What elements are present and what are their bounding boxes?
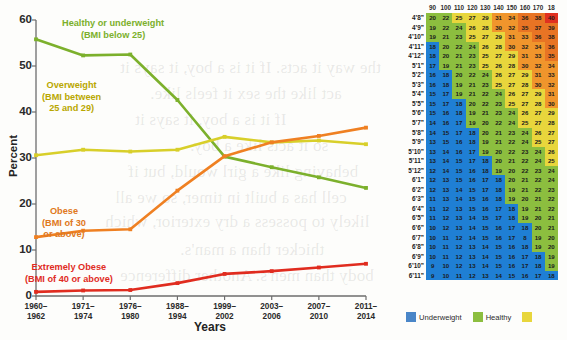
bmi-cell: 18	[518, 242, 531, 252]
bmi-table-row: 6’7”1011121415161781920	[404, 233, 558, 243]
bmi-cell: 19	[492, 166, 505, 176]
bmi-cell: 17	[439, 99, 452, 109]
bmi-cell: 14	[452, 194, 465, 204]
bmi-cell: 23	[518, 147, 531, 157]
bmi-cell: 20	[532, 223, 545, 233]
bmi-cell: 24	[518, 137, 531, 147]
bmi-height-label: 5’2”	[404, 70, 426, 80]
data-point	[317, 134, 321, 138]
bmi-cell: 16	[518, 271, 531, 281]
x-tick-label: 1988–1994	[150, 302, 204, 322]
bmi-cell: 13	[452, 204, 465, 214]
bmi-cell: 19	[426, 32, 439, 42]
bmi-cell: 27	[492, 51, 505, 61]
data-point	[317, 175, 321, 179]
series-annotation-healthy-or-underweight: Healthy or underweight(BMI below 25)	[62, 18, 164, 41]
bmi-cell: 12	[439, 223, 452, 233]
bmi-cell: 24	[532, 156, 545, 166]
bmi-cell: 23	[545, 185, 558, 195]
bmi-cell: 28	[492, 42, 505, 52]
bmi-height-label: 5’11”	[404, 156, 426, 166]
data-point	[364, 186, 368, 190]
bmi-cell: 16	[426, 70, 439, 80]
bmi-cell: 20	[518, 194, 531, 204]
bmi-cell: 19	[466, 118, 479, 128]
bmi-cell: 31	[492, 13, 505, 23]
bmi-cell: 22	[505, 147, 518, 157]
bmi-height-label: 5’7”	[404, 118, 426, 128]
bmi-cell: 22	[532, 175, 545, 185]
bmi-cell: 14	[466, 223, 479, 233]
bmi-cell: 19	[426, 23, 439, 33]
bmi-cell: 38	[532, 13, 545, 23]
data-point	[81, 289, 85, 293]
bmi-cell: 20	[479, 128, 492, 138]
bmi-cell: 14	[479, 261, 492, 271]
bmi-cell: 14	[439, 147, 452, 157]
bmi-cell: 22	[545, 204, 558, 214]
bmi-height-label: 5’3”	[404, 80, 426, 90]
bmi-cell: 15	[466, 194, 479, 204]
bmi-cell: 14	[439, 156, 452, 166]
bmi-cell: 21	[518, 175, 531, 185]
bmi-cell: 18	[492, 185, 505, 195]
bmi-cell: 14	[426, 118, 439, 128]
bmi-cell: 13	[439, 185, 452, 195]
bmi-cell: 26	[518, 108, 531, 118]
bmi-height-label: 4’9”	[404, 23, 426, 33]
bmi-cell: 21	[505, 156, 518, 166]
bmi-cell: 26	[532, 128, 545, 138]
data-point	[270, 140, 274, 144]
x-tick-label: 1976–1980	[103, 302, 157, 322]
data-point	[34, 235, 38, 239]
bmi-table-row: 6’9”10111213141516171819	[404, 252, 558, 262]
bmi-cell: 20	[545, 242, 558, 252]
bmi-cell: 23	[452, 32, 465, 42]
bmi-height-label: 5’4”	[404, 89, 426, 99]
bmi-cell: 25	[545, 156, 558, 166]
bmi-cell: 39	[545, 23, 558, 33]
bmi-cell: 20	[452, 70, 465, 80]
x-tick-label: 1960–1962	[9, 302, 63, 322]
bmi-cell: 11	[439, 252, 452, 262]
bmi-cell: 31	[532, 70, 545, 80]
bmi-cell: 17	[466, 147, 479, 157]
data-point	[317, 266, 321, 270]
bmi-cell: 9	[426, 261, 439, 271]
bmi-cell: 16	[479, 204, 492, 214]
bmi-cell: 21	[466, 89, 479, 99]
data-point	[270, 269, 274, 273]
bmi-cell: 20	[492, 147, 505, 157]
bmi-cell: 20	[532, 213, 545, 223]
bmi-cell: 22	[439, 13, 452, 23]
bmi-cell: 15	[452, 166, 465, 176]
bmi-cell: 24	[479, 70, 492, 80]
bmi-cell: 18	[466, 128, 479, 138]
bmi-cell: 33	[518, 32, 531, 42]
bmi-cell: 13	[466, 261, 479, 271]
bmi-table-row: 5’8”14151718202123242627	[404, 128, 558, 138]
bmi-cell: 22	[452, 42, 465, 52]
bmi-cell: 18	[492, 194, 505, 204]
bmi-cell: 27	[505, 80, 518, 90]
data-point	[364, 262, 368, 266]
bmi-weight-header: 100	[439, 2, 452, 13]
bmi-height-label: 6’6”	[404, 223, 426, 233]
bmi-cell: 19	[518, 204, 531, 214]
bmi-cell: 15	[466, 185, 479, 195]
bmi-cell: 15	[479, 233, 492, 243]
bmi-cell: 18	[466, 137, 479, 147]
bmi-table-row: 6’8”10111213141516181920	[404, 242, 558, 252]
bmi-table-row: 4’9”19222426283032353739	[404, 23, 558, 33]
bmi-height-label: 6’9”	[404, 252, 426, 262]
bmi-cell: 11	[426, 194, 439, 204]
bmi-cell: 24	[518, 128, 531, 138]
bmi-cell: 17	[479, 185, 492, 195]
bmi-height-label: 6’4”	[404, 204, 426, 214]
bmi-cell: 17	[505, 223, 518, 233]
bmi-table-row: 6’5”11121314151718192021	[404, 213, 558, 223]
bmi-cell: 12	[426, 166, 439, 176]
bmi-cell: 16	[439, 108, 452, 118]
bmi-table-row: 6’3”11131415161819202122	[404, 194, 558, 204]
bmi-table-row: 5’12”12141516181920222324	[404, 166, 558, 176]
